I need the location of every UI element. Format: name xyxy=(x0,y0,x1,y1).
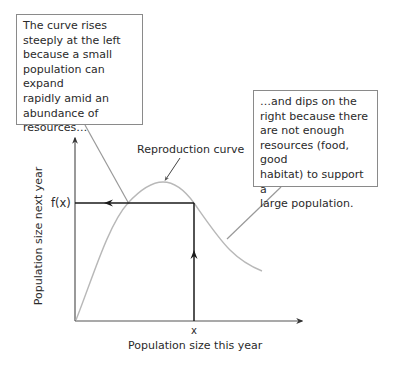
curve-label-pointer xyxy=(166,158,180,179)
callout-line: resources… xyxy=(23,121,137,136)
fx-label: f(x) xyxy=(51,196,71,210)
callout-line: because a small xyxy=(23,48,137,63)
callout-line: steeply at the left xyxy=(23,34,137,49)
callout-line: The curve rises xyxy=(23,19,137,34)
left-callout-box: The curve rises steeply at the left beca… xyxy=(16,14,143,125)
x-tick-label: x xyxy=(191,325,197,336)
callout-line: are not enough xyxy=(260,124,372,139)
left-callout-pointer xyxy=(85,125,129,204)
callout-line: population can expand xyxy=(23,63,137,92)
x-axis-label: Population size this year xyxy=(128,339,262,352)
callout-line: right because there xyxy=(260,110,372,125)
callout-line: rapidly amid an xyxy=(23,92,137,107)
callout-line: habitat) to support a xyxy=(260,168,372,197)
right-callout-box: …and dips on the right because there are… xyxy=(253,90,378,187)
callout-line: large population. xyxy=(260,197,372,212)
reproduction-curve-label: Reproduction curve xyxy=(137,143,244,156)
callout-line: resources (food, good xyxy=(260,139,372,168)
callout-line: abundance of xyxy=(23,107,137,122)
y-axis-label: Population size next year xyxy=(32,167,45,306)
callout-line: …and dips on the xyxy=(260,95,372,110)
